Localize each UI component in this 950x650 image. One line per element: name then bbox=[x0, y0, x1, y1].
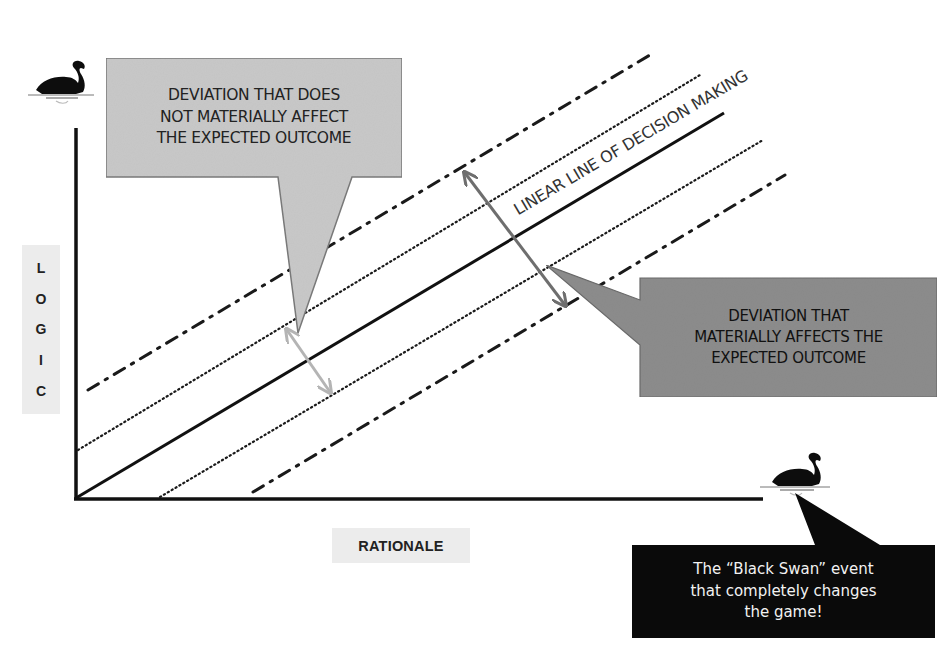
black-swan-callout-text: The “Black Swan” event that completely c… bbox=[632, 545, 935, 638]
y-axis-letter: C bbox=[36, 383, 46, 399]
y-axis-letter: L bbox=[37, 260, 46, 276]
black-swan-icon bbox=[28, 61, 94, 103]
minor-deviation-arrow bbox=[287, 330, 330, 392]
callout-line: THE EXPECTED OUTCOME bbox=[157, 128, 352, 149]
callout-line: NOT MATERIALLY AFFECT bbox=[160, 107, 348, 128]
y-axis-label: L O G I C bbox=[22, 245, 60, 414]
y-axis-letter: O bbox=[36, 291, 47, 307]
y-axis-letter: I bbox=[39, 352, 43, 368]
black-swan-icon bbox=[760, 453, 830, 495]
callout-line: DEVIATION THAT DOES bbox=[168, 85, 340, 106]
callout-line: The “Black Swan” event bbox=[693, 559, 873, 581]
y-axis-letter: G bbox=[36, 321, 47, 337]
callout-line: DEVIATION THAT bbox=[728, 306, 849, 327]
callout-line: that completely changes bbox=[690, 581, 876, 603]
x-axis-label: RATIONALE bbox=[332, 528, 470, 563]
callout-line: EXPECTED OUTCOME bbox=[711, 348, 866, 369]
major-deviation-callout-text: DEVIATION THAT MATERIALLY AFFECTS THE EX… bbox=[640, 278, 937, 397]
callout-line: the game! bbox=[745, 602, 823, 624]
callout-line: MATERIALLY AFFECTS THE bbox=[694, 327, 883, 348]
minor-deviation-callout-text: DEVIATION THAT DOES NOT MATERIALLY AFFEC… bbox=[106, 58, 402, 177]
